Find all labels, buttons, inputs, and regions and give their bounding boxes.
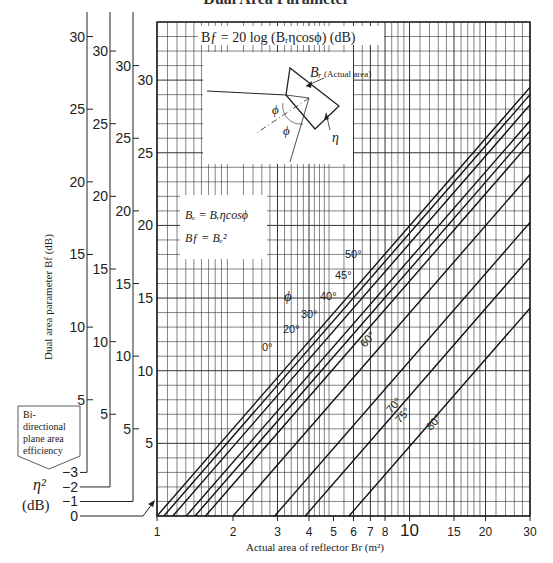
eta-value-label: 0 xyxy=(70,508,78,524)
x-axis-label: Actual area of reflector Br (m²) xyxy=(246,541,384,554)
phi-label-45: 45° xyxy=(335,269,352,281)
phi-label-60: 60° xyxy=(358,329,378,349)
phi-label-50: 50° xyxy=(345,248,362,260)
eta-axis-tick: 5 xyxy=(77,392,85,408)
phi-legend-symbol: ϕ xyxy=(284,288,292,304)
eta-axis-tick: 15 xyxy=(69,246,85,262)
phi-upper: ϕ xyxy=(272,102,279,117)
x-tick-label: 7 xyxy=(367,525,374,539)
definition-box: Bₑ = Bᵣηcosϕ Bƒ = Bₑ² xyxy=(180,195,267,259)
eta-axis-tick: 20 xyxy=(92,188,108,204)
phi-line-80 xyxy=(349,308,530,516)
x-tick-label: 6 xyxy=(350,525,357,539)
efficiency-box: Bi- directional plane area efficiency xyxy=(18,406,80,469)
x-tick-label: 8 xyxy=(382,525,389,539)
efficiency-line-2: directional xyxy=(23,421,66,432)
eta-axis-tick: 20 xyxy=(69,174,85,190)
phi-label-40: 40° xyxy=(320,290,337,302)
x-tick-label: 15 xyxy=(447,525,461,539)
eta-axis-tick: 15 xyxy=(92,261,108,277)
eta-axis-tick: 10 xyxy=(115,348,131,364)
definition-line-2: Bƒ = Bₑ² xyxy=(185,231,227,245)
efficiency-line-3: plane area xyxy=(23,433,64,444)
phi-line-30 xyxy=(173,105,530,516)
definition-line-1: Bₑ = Bᵣηcosϕ xyxy=(185,208,248,222)
eta-axis-tick: 20 xyxy=(115,203,131,219)
x-tick-label: 3 xyxy=(274,525,281,539)
eta-axis-tick: 30 xyxy=(69,29,85,45)
y-tick-label: 25 xyxy=(137,145,153,161)
x-tick-label: 5 xyxy=(330,525,337,539)
y-tick-label: 20 xyxy=(137,217,153,233)
main-formula: Bƒ = 20 log (Bᵣηcosϕ) (dB) xyxy=(201,30,356,46)
eta-symbol: η xyxy=(332,130,339,145)
eta-axis-tick: 25 xyxy=(92,116,108,132)
efficiency-line-1: Bi- xyxy=(23,409,36,420)
y-tick-label: 15 xyxy=(137,290,153,306)
y-tick-label: 5 xyxy=(145,435,153,451)
eta-axis-tick: 25 xyxy=(69,101,85,117)
phi-label-80: 80° xyxy=(424,412,444,432)
x-tick-label: 30 xyxy=(523,525,537,539)
eta-axis-tick: 30 xyxy=(92,43,108,59)
dual-area-parameter-chart: 0°20°30°40°45°50°60°70°75°80° 1234567810… xyxy=(0,0,553,563)
eta-axis-tick: 10 xyxy=(69,319,85,335)
eta-axis-tick: 15 xyxy=(115,276,131,292)
phi-lower: ϕ xyxy=(283,123,290,138)
y-tick-label: 10 xyxy=(137,363,153,379)
eta-axis-tick: 5 xyxy=(100,406,108,422)
x-tick-label: 20 xyxy=(479,525,493,539)
eta-axis-tick: 10 xyxy=(92,334,108,350)
x-tick-label: 1 xyxy=(154,525,161,539)
eta-axis-tick: 30 xyxy=(115,58,131,74)
x-tick-label: 4 xyxy=(306,525,313,539)
phi-label-20: 20° xyxy=(283,323,300,335)
phi-line-40 xyxy=(186,121,530,516)
br-note: (Actual area) xyxy=(324,69,371,79)
phi-label-0: 0° xyxy=(262,341,273,353)
br-symbol: Bᵣ xyxy=(310,65,322,80)
y-tick-label: 30 xyxy=(137,72,153,88)
y-axis-label: Dual area parameter Bf (dB) xyxy=(42,234,55,360)
phi-label-30: 30° xyxy=(301,308,318,320)
eta-axis-tick: 5 xyxy=(123,421,131,437)
x-tick-label: 2 xyxy=(230,525,237,539)
eta-squared-label: η² xyxy=(33,476,47,494)
eta-unit-label: (dB) xyxy=(22,497,50,514)
x-tick-label: 10 xyxy=(400,521,419,540)
eta-axis-tick: 25 xyxy=(115,130,131,146)
efficiency-line-4: efficiency xyxy=(23,445,63,456)
